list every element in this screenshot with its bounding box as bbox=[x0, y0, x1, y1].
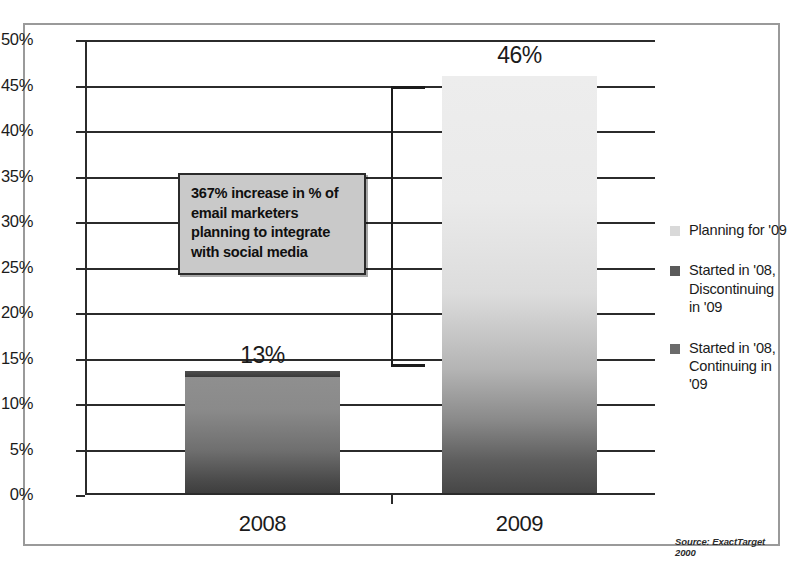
chart-legend: Planning for '09 Started in '08, Discont… bbox=[670, 221, 788, 416]
xlabel-2008: 2008 bbox=[185, 511, 340, 537]
ylabel-30: 30% bbox=[0, 212, 33, 231]
xlabel-2009: 2009 bbox=[442, 511, 597, 537]
ytick-20 bbox=[76, 313, 85, 315]
legend-item-continuing[interactable]: Started in '08, Continuing in '09 bbox=[670, 339, 788, 394]
ylabel-20: 20% bbox=[0, 303, 33, 322]
ytick-35 bbox=[76, 177, 85, 179]
x-axis-line bbox=[85, 493, 655, 495]
y-axis-line bbox=[85, 40, 87, 495]
ytick-30 bbox=[76, 222, 85, 224]
ylabel-50: 50% bbox=[0, 30, 33, 49]
ylabel-15: 15% bbox=[0, 349, 33, 368]
bar-2009[interactable]: 88% of those who used tactic in '08 will… bbox=[442, 76, 597, 495]
plot-area: 50% 45% 40% 35% 30% 25% 20% 15% 10% 5% 0… bbox=[85, 40, 655, 495]
legend-label-planning: Planning for '09 bbox=[689, 222, 787, 238]
legend-swatch-icon-continuing bbox=[670, 344, 680, 354]
legend-label-discontinuing: Started in '08, Discontinuing in '09 bbox=[689, 262, 776, 315]
x-axis-center-tick bbox=[391, 495, 393, 504]
ytick-45 bbox=[76, 86, 85, 88]
callout-box: 367% increase in % of email marketers pl… bbox=[178, 173, 366, 275]
chart-frame: 50% 45% 40% 35% 30% 25% 20% 15% 10% 5% 0… bbox=[23, 23, 780, 546]
legend-swatch-icon-planning bbox=[670, 226, 680, 236]
ylabel-5: 5% bbox=[0, 440, 33, 459]
ytick-40 bbox=[76, 131, 85, 133]
bar-2009-value-label: 46% bbox=[442, 42, 597, 69]
ylabel-45: 45% bbox=[0, 76, 33, 95]
bar-2008-value-label: 13% bbox=[185, 342, 340, 369]
annotation-bracket-bottom-tick bbox=[391, 364, 425, 367]
bar-2008[interactable] bbox=[185, 377, 340, 495]
ylabel-25: 25% bbox=[0, 258, 33, 277]
ytick-5 bbox=[76, 450, 85, 452]
legend-swatch-icon-discontinuing bbox=[670, 266, 680, 276]
ytick-50 bbox=[76, 40, 85, 42]
legend-item-discontinuing[interactable]: Started in '08, Discontinuing in '09 bbox=[670, 261, 788, 316]
ylabel-10: 10% bbox=[0, 394, 33, 413]
ylabel-0: 0% bbox=[0, 485, 33, 504]
source-note: Source: ExactTarget 2000 bbox=[675, 536, 778, 558]
bar-2008-top-segment[interactable] bbox=[185, 371, 340, 377]
legend-item-planning[interactable]: Planning for '09 bbox=[670, 221, 788, 239]
legend-label-continuing: Started in '08, Continuing in '09 bbox=[689, 340, 776, 393]
ylabel-40: 40% bbox=[0, 121, 33, 140]
ytick-25 bbox=[76, 268, 85, 270]
annotation-bracket bbox=[391, 86, 393, 365]
annotation-bracket-top-tick bbox=[391, 86, 425, 89]
ytick-15 bbox=[76, 359, 85, 361]
ylabel-35: 35% bbox=[0, 167, 33, 186]
ytick-0 bbox=[76, 495, 85, 497]
ytick-10 bbox=[76, 404, 85, 406]
